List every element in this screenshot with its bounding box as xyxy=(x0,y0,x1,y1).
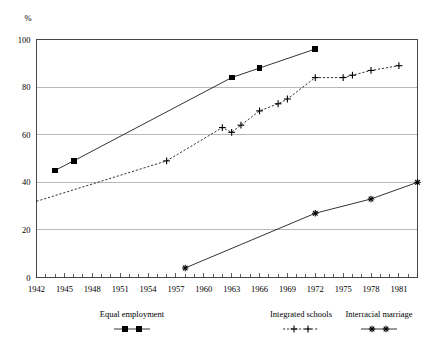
legend-label: Interracial marriage xyxy=(345,309,412,319)
data-point-0-3 xyxy=(257,66,262,71)
y-tick-label-60: 60 xyxy=(22,130,31,140)
x-tick-label-1981: 1981 xyxy=(390,284,407,294)
legend-marker-a xyxy=(123,327,128,332)
y-axis-label: % xyxy=(24,13,31,23)
legend-marker-a xyxy=(369,326,375,332)
y-tick-label-100: 100 xyxy=(18,35,31,45)
data-point-0-2 xyxy=(229,75,234,80)
x-tick-label-1966: 1966 xyxy=(251,284,268,294)
x-tick-label-1978: 1978 xyxy=(363,284,380,294)
x-tick-label-1954: 1954 xyxy=(140,284,158,294)
x-tick-label-1975: 1975 xyxy=(335,284,352,294)
data-point-2-3 xyxy=(414,179,420,185)
chart-svg: 020406080100 194219451948195119541957196… xyxy=(0,0,437,351)
x-tick-label-1948: 1948 xyxy=(84,284,101,294)
data-point-0-0 xyxy=(53,168,58,173)
chart-background xyxy=(0,0,437,351)
legend-label: Equal employment xyxy=(100,309,165,319)
legend-label: Integrated schools xyxy=(270,309,332,319)
data-point-2-0 xyxy=(182,265,188,271)
y-tick-label-20: 20 xyxy=(22,225,31,235)
x-tick-label-1945: 1945 xyxy=(56,284,73,294)
x-tick-label-1963: 1963 xyxy=(223,284,240,294)
y-tick-label-80: 80 xyxy=(22,82,31,92)
x-tick-label-1942: 1942 xyxy=(28,284,45,294)
x-tick-label-1957: 1957 xyxy=(167,284,184,294)
data-point-2-1 xyxy=(312,210,318,216)
legend-marker-b xyxy=(383,326,389,332)
y-tick-label-0: 0 xyxy=(26,273,30,283)
legend-marker-b xyxy=(137,327,142,332)
chart-figure: 020406080100 194219451948195119541957196… xyxy=(0,0,437,351)
x-tick-label-1960: 1960 xyxy=(195,284,212,294)
x-tick-label-1951: 1951 xyxy=(112,284,129,294)
data-point-0-4 xyxy=(313,47,318,52)
x-tick-label-1969: 1969 xyxy=(279,284,296,294)
data-point-0-1 xyxy=(71,158,76,163)
x-tick-label-1972: 1972 xyxy=(307,284,324,294)
y-tick-label-40: 40 xyxy=(22,177,31,187)
data-point-2-2 xyxy=(368,196,374,202)
